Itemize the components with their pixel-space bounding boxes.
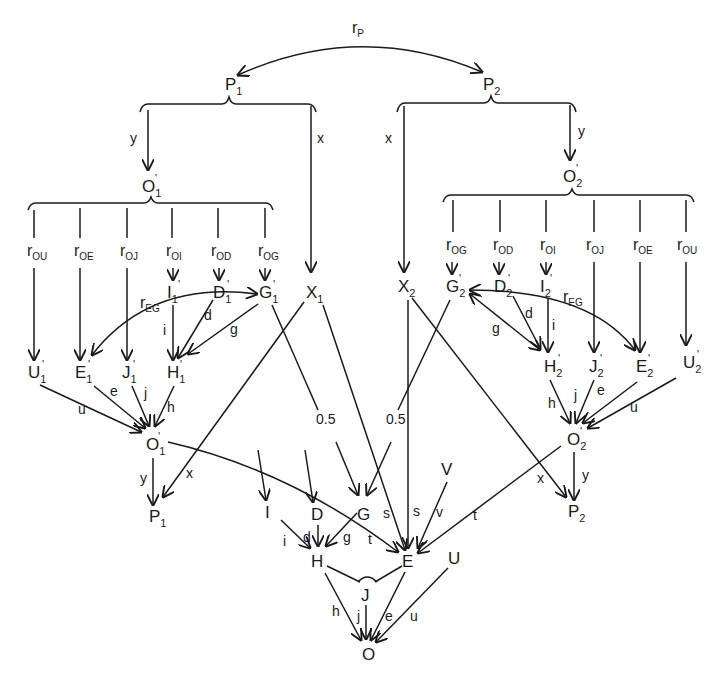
svg-text:': ' xyxy=(558,352,560,364)
svg-text:E2: E2 xyxy=(636,357,653,379)
svg-text:O: O xyxy=(362,645,375,664)
node-O2: O2 ' xyxy=(567,425,586,452)
svg-text:P2: P2 xyxy=(483,75,500,97)
node-O1: O1 ' xyxy=(146,430,165,457)
svg-text:g: g xyxy=(343,529,351,545)
svg-text:I1: I1 xyxy=(167,283,178,305)
node-O1-prime: O1 ' xyxy=(142,172,161,199)
svg-text:u: u xyxy=(410,608,418,624)
svg-text:': ' xyxy=(155,172,157,184)
svg-text:u: u xyxy=(78,401,86,417)
node-P1-bottom: P1 xyxy=(149,507,166,529)
svg-text:e: e xyxy=(597,382,605,398)
svg-text:y: y xyxy=(582,467,589,483)
svg-text:h: h xyxy=(548,395,556,411)
svg-text:': ' xyxy=(697,348,699,360)
svg-text:e: e xyxy=(385,608,393,624)
svg-text:rOD: rOD xyxy=(211,242,231,262)
svg-text:': ' xyxy=(88,358,90,370)
left-lower-nodes: U1 ' E1 ' J1 ' H1 ' xyxy=(28,358,185,385)
svg-text:d: d xyxy=(525,305,533,321)
svg-text:G1: G1 xyxy=(259,283,278,305)
svg-text:t: t xyxy=(473,507,477,523)
svg-text:X1: X1 xyxy=(306,283,323,305)
svg-text:d: d xyxy=(303,529,311,545)
svg-text:': ' xyxy=(180,358,182,370)
svg-text:rOI: rOI xyxy=(166,242,182,262)
path-diagram: rP P1 P2 y x x y O1 ' rOU rOE rOJ rOI rO… xyxy=(0,0,721,679)
svg-text:v: v xyxy=(436,504,443,520)
right-r-labels: rOG rOD rOI rOJ rOE rOU xyxy=(446,236,697,256)
svg-text:rOJ: rOJ xyxy=(120,242,138,262)
svg-text:H1: H1 xyxy=(167,363,185,385)
bracket-P1 xyxy=(140,97,316,112)
svg-text:rOG: rOG xyxy=(258,242,279,262)
svg-text:rOE: rOE xyxy=(74,242,94,262)
bracket-P2 xyxy=(397,96,576,112)
svg-text:rOG: rOG xyxy=(446,236,467,256)
svg-text:O2: O2 xyxy=(567,430,586,452)
svg-text:h: h xyxy=(332,603,340,619)
svg-text:i: i xyxy=(283,533,286,549)
svg-text:y: y xyxy=(140,470,147,486)
right-lower-nodes: H2 ' J2 ' E2 ' U2 ' xyxy=(544,348,701,379)
svg-text:O1: O1 xyxy=(142,177,161,199)
center-nodes: I D G V H E U J O xyxy=(265,460,460,664)
bracket-O2 xyxy=(443,189,694,202)
svg-text:s: s xyxy=(383,505,390,521)
svg-text:g: g xyxy=(230,321,238,337)
svg-text:j: j xyxy=(143,385,147,401)
svg-text:d: d xyxy=(204,307,212,323)
svg-text:y: y xyxy=(578,123,585,139)
svg-text:V: V xyxy=(441,460,453,479)
svg-text:G: G xyxy=(357,505,370,524)
svg-text:t: t xyxy=(368,531,372,547)
svg-text:I: I xyxy=(265,503,270,522)
bracket-O1 xyxy=(28,197,273,210)
svg-text:O2: O2 xyxy=(563,167,582,189)
svg-text:x: x xyxy=(317,130,324,146)
svg-text:P2: P2 xyxy=(568,502,585,524)
svg-text:': ' xyxy=(648,352,650,364)
right-r-stems xyxy=(453,200,686,232)
svg-text:U: U xyxy=(448,549,460,568)
svg-text:s: s xyxy=(413,503,420,519)
svg-text:P1: P1 xyxy=(225,75,242,97)
node-O2-prime: O2 ' xyxy=(563,162,582,189)
left-r-labels: rOU rOE rOJ rOI rOD rOG xyxy=(27,242,279,262)
svg-text:': ' xyxy=(580,425,582,437)
left-upper-nodes: I1 ' D1 ' G1 ' X1 xyxy=(167,278,323,305)
svg-text:': ' xyxy=(576,162,578,174)
svg-text:': ' xyxy=(133,358,135,370)
svg-text:': ' xyxy=(227,278,229,290)
svg-text:x: x xyxy=(186,465,193,481)
svg-text:rOU: rOU xyxy=(27,242,47,262)
svg-text:i: i xyxy=(163,322,166,338)
node-P1-top: P1 xyxy=(225,75,242,97)
svg-text:': ' xyxy=(178,278,180,290)
svg-text:0.5: 0.5 xyxy=(316,411,336,427)
svg-text:rOE: rOE xyxy=(633,236,653,256)
rp-correlation: rP xyxy=(238,19,482,75)
svg-text:G2: G2 xyxy=(446,277,465,299)
svg-text:y: y xyxy=(130,130,137,146)
svg-text:': ' xyxy=(508,272,510,284)
svg-text:E: E xyxy=(402,552,413,571)
svg-text:0.5: 0.5 xyxy=(386,411,406,427)
svg-text:': ' xyxy=(158,430,160,442)
svg-text:H: H xyxy=(311,552,323,571)
svg-text:': ' xyxy=(550,272,552,284)
svg-text:j: j xyxy=(573,387,577,403)
svg-text:rP: rP xyxy=(352,19,364,39)
svg-text:i: i xyxy=(552,317,555,333)
svg-text:j: j xyxy=(356,608,360,624)
svg-text:': ' xyxy=(273,278,275,290)
svg-text:': ' xyxy=(459,272,461,284)
svg-text:O1: O1 xyxy=(146,435,165,457)
svg-text:u: u xyxy=(630,399,638,415)
svg-text:e: e xyxy=(110,383,118,399)
svg-text:rOI: rOI xyxy=(540,236,556,256)
svg-text:rOD: rOD xyxy=(493,236,513,256)
svg-text:': ' xyxy=(600,352,602,364)
node-P2-top: P2 xyxy=(483,75,500,97)
